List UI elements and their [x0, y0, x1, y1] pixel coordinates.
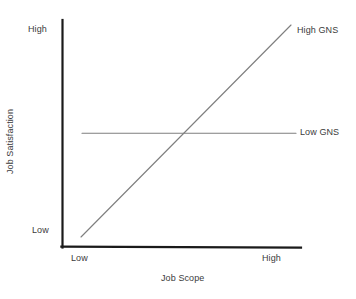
- x-axis-title: Job Scope: [161, 274, 204, 283]
- series-label-low-gns: Low GNS: [300, 128, 339, 137]
- x-axis-line: [61, 247, 301, 248]
- y-axis-tick-high: High: [28, 25, 47, 34]
- chart-plot-area: [0, 0, 356, 299]
- x-axis-tick-high: High: [262, 254, 281, 263]
- x-axis-tick-low: Low: [71, 254, 88, 263]
- y-axis-title: Job Satisfaction: [6, 106, 15, 178]
- y-axis-tick-low: Low: [32, 226, 49, 235]
- series-label-high-gns: High GNS: [297, 26, 338, 35]
- job-scope-satisfaction-chart: High Low Low High Job Scope Job Satisfac…: [0, 0, 356, 299]
- series-line-high-gns: [81, 25, 291, 237]
